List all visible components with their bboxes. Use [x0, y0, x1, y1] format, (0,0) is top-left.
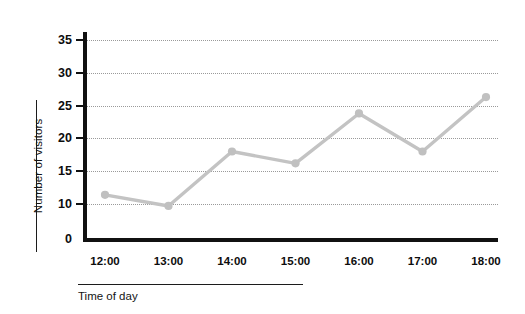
y-axis-tick [76, 170, 83, 172]
y-axis-title-group: Number of visitors [14, 96, 38, 256]
y-axis-tick [76, 39, 83, 41]
data-point-marker [355, 109, 363, 117]
data-point-marker [418, 147, 426, 155]
y-axis-tick [76, 137, 83, 139]
y-axis-tick-label: 15 [58, 164, 72, 178]
series-line [105, 97, 486, 206]
plot-area: 3530252015100 12:0013:0014:0015:0016:001… [83, 33, 498, 240]
y-axis-tick [76, 105, 83, 107]
x-axis-title-rule [78, 284, 303, 285]
data-series [83, 33, 498, 240]
x-axis-tick-label: 15:00 [281, 255, 310, 267]
y-axis-tick [76, 203, 83, 205]
y-axis-tick-label: 25 [58, 99, 72, 113]
x-axis-tick-label: 17:00 [408, 255, 437, 267]
data-point-marker [228, 147, 236, 155]
data-point-marker [482, 93, 490, 101]
x-axis-tick-label: 18:00 [471, 255, 500, 267]
y-axis-tick-label: 35 [58, 33, 72, 47]
y-axis-tick-label: 20 [58, 131, 72, 145]
y-axis-tick-label: 0 [65, 232, 72, 246]
x-axis-tick-label: 12:00 [90, 255, 119, 267]
x-axis-tick-label: 16:00 [344, 255, 373, 267]
y-axis-tick-label: 10 [58, 197, 72, 211]
line-chart: Number of visitors 3530252015100 12:0013… [0, 0, 525, 314]
x-axis-title: Time of day [78, 290, 138, 302]
x-axis-tick-label: 14:00 [217, 255, 246, 267]
data-point-marker [164, 202, 172, 210]
y-axis-tick-label: 30 [58, 66, 72, 80]
x-axis-tick-label: 13:00 [154, 255, 183, 267]
y-axis-tick [76, 72, 83, 74]
y-axis-title: Number of visitors [32, 86, 44, 246]
data-point-marker [291, 159, 299, 167]
data-point-marker [101, 191, 109, 199]
